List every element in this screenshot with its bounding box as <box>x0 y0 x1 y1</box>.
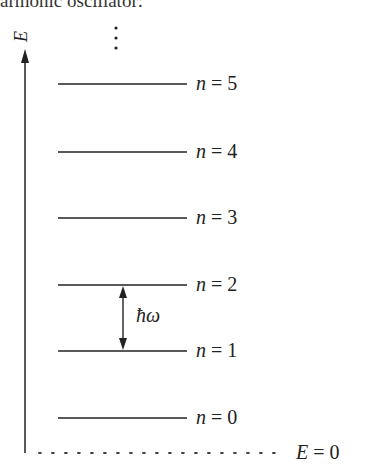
energy-diagram <box>0 0 380 472</box>
energy-axis-label: E <box>11 31 32 42</box>
arrow-down-icon <box>119 338 127 350</box>
continuation-dot <box>114 46 117 49</box>
level-label-n4: n = 4 <box>196 140 237 163</box>
level-label-n2: n = 2 <box>196 273 237 296</box>
axis-arrowhead-icon <box>21 49 29 63</box>
level-label-n1: n = 1 <box>196 339 237 362</box>
level-label-n0: n = 0 <box>196 406 237 429</box>
spacing-label: ħω <box>136 304 160 327</box>
continuation-dot <box>114 26 117 29</box>
continuation-dot <box>114 36 117 39</box>
zero-energy-label: E = 0 <box>296 441 340 464</box>
arrow-up-icon <box>119 286 127 298</box>
level-label-n3: n = 3 <box>196 206 237 229</box>
level-label-n5: n = 5 <box>196 72 237 95</box>
